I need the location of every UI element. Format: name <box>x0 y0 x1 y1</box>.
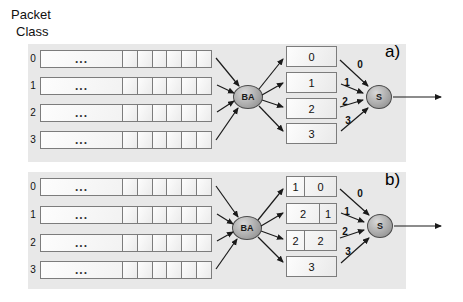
queue-label: 0 <box>26 50 40 68</box>
queue-cell <box>181 78 196 94</box>
queue-cell <box>152 179 167 195</box>
queue-cell <box>137 51 152 67</box>
class-queue-cell: 3 <box>287 124 336 143</box>
queue-cell <box>181 179 196 195</box>
queue-cell <box>137 207 152 223</box>
input-queue: ... <box>40 77 212 95</box>
class-queue: 1 <box>286 72 337 93</box>
queue-cell <box>122 207 137 223</box>
queue-label: 0 <box>26 178 40 196</box>
queue-cell <box>166 78 181 94</box>
class-queue: 0 <box>286 46 337 67</box>
class-queue-cell: 2 <box>287 99 336 118</box>
queue-cell <box>122 78 137 94</box>
queue-cell <box>196 262 211 278</box>
queue-ellipsis: ... <box>41 262 122 278</box>
queue-cell <box>137 262 152 278</box>
queue-label: 3 <box>26 261 40 279</box>
class-queue-cell: 2 <box>287 204 319 223</box>
input-queue: ... <box>40 234 212 252</box>
queue-cell <box>152 262 167 278</box>
queue-cell <box>137 78 152 94</box>
queue-cell <box>181 207 196 223</box>
queue-cell <box>181 132 196 148</box>
queue-cell <box>152 51 167 67</box>
input-queue: ... <box>40 178 212 196</box>
queue-cell <box>181 235 196 251</box>
input-queue: ... <box>40 131 212 149</box>
queue-cell <box>122 51 137 67</box>
queue-cell <box>137 132 152 148</box>
queue-cell <box>196 105 211 121</box>
queue-label: 2 <box>26 234 40 252</box>
class-queue-cell: 2 <box>287 231 304 250</box>
input-queue: ... <box>40 104 212 122</box>
class-queue: 2 1 <box>286 203 337 224</box>
queue-cell <box>166 105 181 121</box>
ba-classifier-node: BA <box>233 85 263 109</box>
queue-cell <box>137 179 152 195</box>
queue-cell <box>181 262 196 278</box>
queue-cell <box>196 132 211 148</box>
queue-label: 3 <box>26 131 40 149</box>
input-queue: ... <box>40 50 212 68</box>
class-queue: 2 <box>286 98 337 119</box>
queue-cell <box>152 105 167 121</box>
class-queue-cell: 2 <box>304 231 336 250</box>
scheduler-node: S <box>367 214 393 238</box>
queue-cell <box>122 235 137 251</box>
class-queue-cell: 1 <box>319 204 336 223</box>
class-queue-cell: 0 <box>304 177 336 196</box>
queue-cell <box>196 78 211 94</box>
queue-cell <box>137 235 152 251</box>
ba-classifier-node: BA <box>232 216 262 240</box>
queue-cell <box>166 262 181 278</box>
panel-a-tag: a) <box>385 42 400 62</box>
queue-cell <box>181 51 196 67</box>
queue-cell <box>137 105 152 121</box>
input-queue: ... <box>40 206 212 224</box>
queue-ellipsis: ... <box>41 132 122 148</box>
queue-cell <box>152 78 167 94</box>
queue-cell <box>152 132 167 148</box>
queue-label: 1 <box>26 206 40 224</box>
scheduler-node: S <box>366 85 392 109</box>
input-queue: ... <box>40 261 212 279</box>
class-queue-cell: 1 <box>287 177 304 196</box>
queue-cell <box>166 235 181 251</box>
queue-cell <box>122 105 137 121</box>
queue-cell <box>196 235 211 251</box>
class-queue-cell: 0 <box>287 47 336 66</box>
diagram-canvas: Packet Class a) 0 1 2 3 ... ... ... ... … <box>0 0 463 302</box>
queue-ellipsis: ... <box>41 78 122 94</box>
queue-ellipsis: ... <box>41 179 122 195</box>
class-queue: 1 0 <box>286 176 337 197</box>
class-queue-cell: 3 <box>287 257 336 276</box>
queue-cell <box>166 132 181 148</box>
queue-ellipsis: ... <box>41 235 122 251</box>
queue-ellipsis: ... <box>41 207 122 223</box>
queue-cell <box>122 179 137 195</box>
class-queue: 2 2 <box>286 230 337 251</box>
panel-b-tag: b) <box>385 170 400 190</box>
queue-ellipsis: ... <box>41 51 122 67</box>
class-queue: 3 <box>286 256 337 277</box>
queue-cell <box>196 207 211 223</box>
queue-cell <box>181 105 196 121</box>
queue-cell <box>196 51 211 67</box>
queue-label: 2 <box>26 104 40 122</box>
queue-cell <box>152 207 167 223</box>
queue-cell <box>166 179 181 195</box>
queue-cell <box>152 235 167 251</box>
class-queue: 3 <box>286 123 337 144</box>
queue-cell <box>122 132 137 148</box>
queue-label: 1 <box>26 77 40 95</box>
queue-cell <box>166 207 181 223</box>
class-queue-cell: 1 <box>287 73 336 92</box>
queue-ellipsis: ... <box>41 105 122 121</box>
page-title-line1: Packet <box>11 7 51 22</box>
page-title-line2: Class <box>16 24 49 39</box>
queue-cell <box>196 179 211 195</box>
queue-cell <box>122 262 137 278</box>
queue-cell <box>166 51 181 67</box>
